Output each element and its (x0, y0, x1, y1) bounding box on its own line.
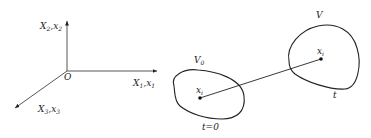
current-point-label: xi (317, 46, 324, 57)
current-region-outline (289, 25, 359, 89)
initial-time-label: t=0 (202, 122, 219, 132)
axis-x3-line (15, 71, 67, 108)
continuum-motion-diagram: O X2,x2 X1,x1 X3,x3 V0 xi t=0 V xi t (0, 0, 371, 138)
axis-x3-label: X3,x3 (37, 104, 60, 115)
current-point-marker (319, 57, 323, 61)
diagram-svg: O X2,x2 X1,x1 X3,x3 V0 xi t=0 V xi t (0, 0, 371, 138)
origin-label: O (64, 72, 72, 82)
initial-point-marker (198, 96, 202, 100)
initial-region-outline (173, 70, 244, 119)
current-region-label: V (316, 10, 324, 20)
axis-x2-label: X2,x2 (39, 21, 62, 32)
coordinate-axes (15, 21, 157, 108)
initial-point-label: xi (196, 85, 203, 96)
axis-x1-label: X1,x1 (132, 78, 155, 89)
initial-region-label: V0 (194, 55, 205, 66)
current-time-label: t (333, 90, 337, 100)
